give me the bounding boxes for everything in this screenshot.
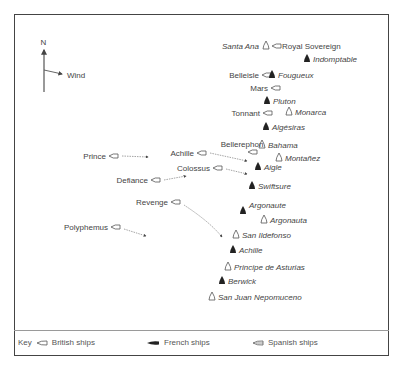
ship-spanish: Montañez	[276, 153, 320, 163]
movement-arrow-icon	[164, 176, 186, 180]
ship-british: Achille	[170, 149, 206, 158]
ship-label: Defiance	[116, 176, 148, 185]
french-ship-icon	[249, 181, 255, 189]
spanish-ship-icon	[286, 107, 292, 115]
ship-british: Belleisle	[229, 71, 271, 80]
spanish-ship-icon	[252, 340, 264, 346]
ship-british: Revenge	[136, 198, 180, 207]
ship-label: Principe de Asturias	[234, 263, 305, 272]
french-ship-icon	[255, 162, 261, 170]
ship-spanish: Bahama	[259, 140, 298, 150]
ship-label: Monarca	[295, 108, 327, 117]
spanish-ship-icon	[276, 153, 282, 161]
ship-label: Montañez	[285, 154, 320, 163]
ship-french: Achille	[230, 245, 263, 255]
ship-label: San Juan Nepomuceno	[218, 293, 302, 302]
wind-label: Wind	[67, 71, 85, 80]
ship-label: Aigle	[263, 163, 282, 172]
ship-british: Tonnant	[232, 109, 272, 118]
ship-british: Prince	[83, 152, 118, 161]
ship-french: Berwick	[219, 276, 257, 286]
ship-label: Royal Sovereign	[282, 42, 341, 51]
british-ship-icon	[151, 178, 160, 183]
ship-french: Argonaute	[240, 201, 286, 214]
movement-arrow-icon	[226, 169, 247, 174]
ship-label: Prince	[83, 152, 106, 161]
spanish-ship-icon	[263, 41, 269, 49]
ship-label: Indomptable	[313, 55, 358, 64]
ship-label: Bahama	[268, 141, 298, 150]
british-ship-icon	[36, 340, 48, 346]
key-british-label: British ships	[52, 338, 95, 347]
key-spanish-label: Spanish ships	[268, 338, 318, 347]
british-ship-icon	[271, 86, 280, 91]
ship-british: Royal Sovereign	[272, 42, 341, 51]
ship-label: Achille	[170, 149, 194, 158]
key-british: Key British ships	[18, 338, 95, 347]
ship-french: Aigle	[255, 162, 282, 172]
ship-label: Fougueux	[278, 71, 315, 80]
ship-british: Colossus	[177, 164, 222, 173]
key-french: French ships	[146, 338, 210, 347]
movement-arrow-icon	[210, 153, 247, 161]
wind-arrow-icon	[44, 70, 62, 74]
french-ship-icon	[264, 96, 270, 104]
ship-label: Santa Ana	[222, 42, 260, 51]
british-ship-icon	[109, 154, 118, 159]
ship-french: Fougueux	[269, 70, 315, 80]
british-ship-icon	[197, 151, 206, 156]
ship-british: Mars	[250, 84, 280, 93]
key-french-label: French ships	[164, 338, 210, 347]
compass: N Wind	[41, 38, 86, 92]
spanish-ship-icon	[233, 230, 239, 238]
ship-spanish: San Juan Nepomuceno	[209, 292, 302, 302]
british-ship-icon	[171, 200, 180, 205]
french-ship-icon	[230, 245, 236, 253]
ship-spanish: Principe de Asturias	[225, 262, 305, 272]
ship-french: Algésiras	[263, 122, 305, 132]
french-ship-icon	[269, 70, 275, 78]
ship-label: Swiftsure	[258, 182, 291, 191]
ship-label: Algésiras	[271, 123, 305, 132]
french-ship-icon	[146, 340, 160, 346]
ship-label: Argonauta	[269, 216, 307, 225]
british-ship-icon	[272, 44, 281, 49]
ship-label: Pluton	[273, 97, 296, 106]
key-title: Key	[18, 338, 32, 347]
ship-label: Mars	[250, 84, 268, 93]
french-ship-icon	[304, 54, 310, 62]
ship-british: Defiance	[116, 176, 160, 185]
ships-layer: Santa AnaRoyal SovereignIndomptableBelle…	[64, 41, 358, 302]
ship-label: Tonnant	[232, 109, 261, 118]
ship-label: Bellerephon	[221, 140, 264, 149]
british-ship-icon	[263, 111, 272, 116]
north-label: N	[41, 38, 47, 47]
spanish-ship-icon	[261, 215, 267, 223]
british-ship-icon	[213, 166, 222, 171]
ship-label: Revenge	[136, 198, 169, 207]
ship-spanish: Monarca	[286, 107, 327, 117]
ship-label: Polyphemus	[64, 223, 108, 232]
british-ship-icon	[111, 225, 120, 230]
battle-map: N Wind Santa AnaRoyal SovereignIndomptab…	[0, 0, 404, 372]
british-ship-icon	[248, 150, 257, 155]
french-ship-icon	[263, 122, 269, 130]
movement-arrow-icon	[184, 205, 222, 237]
ship-french: Swiftsure	[249, 181, 291, 191]
ship-label: Berwick	[228, 277, 257, 286]
key-spanish: Spanish ships	[252, 338, 318, 347]
ship-label: San Ildefonso	[242, 231, 291, 240]
french-ship-icon	[240, 206, 246, 214]
ship-label: Colossus	[177, 164, 210, 173]
movement-arrow-icon	[122, 156, 148, 157]
ship-spanish: San Ildefonso	[233, 230, 291, 240]
ship-british: Bellerephon	[221, 140, 264, 154]
ship-spanish: Santa Ana	[222, 41, 269, 51]
ship-label: Argonaute	[248, 201, 286, 210]
ship-label: Achille	[238, 246, 263, 255]
ship-british: Polyphemus	[64, 223, 120, 232]
ship-french: Pluton	[264, 96, 296, 106]
movement-arrow-icon	[124, 229, 146, 236]
ship-spanish: Argonauta	[261, 215, 307, 225]
french-ship-icon	[219, 276, 225, 284]
